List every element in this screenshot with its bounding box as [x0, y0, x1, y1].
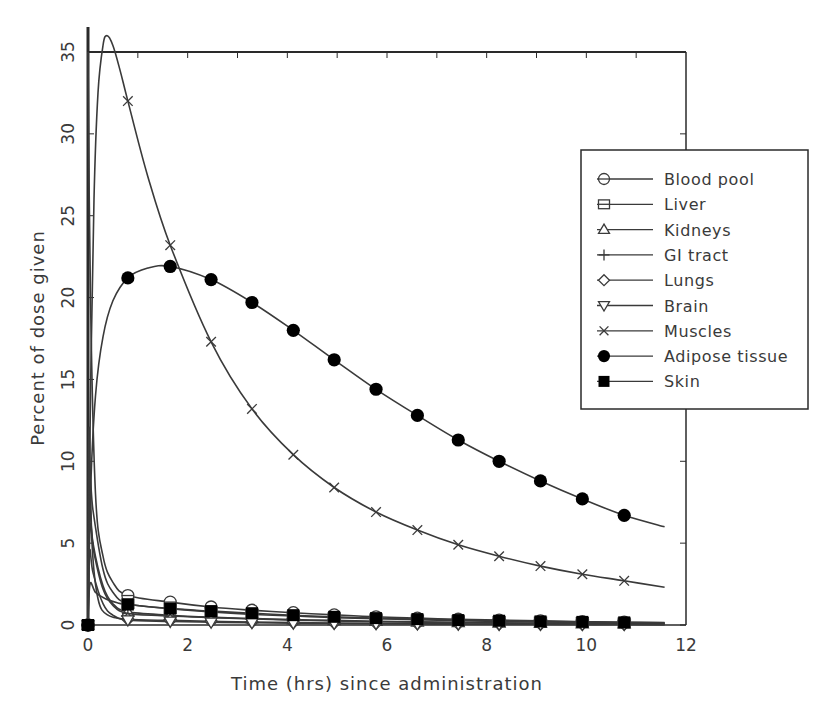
- circle-filled-marker: [121, 271, 134, 284]
- square-filled-marker: [205, 605, 217, 617]
- series-group: [81, 36, 664, 632]
- square-filled-marker: [246, 607, 258, 619]
- circle-filled-marker: [598, 350, 610, 362]
- circle-filled-marker: [369, 383, 382, 396]
- square-filled-marker: [599, 376, 610, 387]
- square-filled-marker: [618, 616, 630, 628]
- y-tick-label: 10: [58, 450, 78, 472]
- legend: Blood poolLiverKidneysGI tractLungsBrain…: [581, 150, 808, 409]
- series-adipose-tissue: [81, 260, 664, 632]
- circle-filled-marker: [493, 455, 506, 468]
- x-tick-label: 10: [576, 635, 598, 655]
- x-tick-label: 4: [282, 635, 293, 655]
- series-line: [88, 36, 665, 625]
- x-tick-label: 12: [675, 635, 697, 655]
- square-filled-marker: [328, 611, 340, 623]
- circle-filled-marker: [452, 433, 465, 446]
- x-tick-label: 6: [382, 635, 393, 655]
- circle-filled-marker: [576, 492, 589, 505]
- legend-label: Skin: [664, 372, 700, 391]
- square-filled-marker: [164, 603, 176, 615]
- y-tick-label: 5: [58, 538, 78, 549]
- circle-filled-marker: [534, 474, 547, 487]
- circle-filled-marker: [164, 260, 177, 273]
- square-filled-marker: [493, 615, 505, 627]
- series-blood-pool: [82, 52, 665, 631]
- legend-label: Adipose tissue: [664, 347, 788, 366]
- series-line: [88, 427, 665, 625]
- chart-canvas: 02468101205101520253035 Blood poolLiverK…: [0, 0, 833, 719]
- legend-label: Blood pool: [664, 170, 754, 189]
- chart: 02468101205101520253035 Blood poolLiverK…: [0, 0, 833, 719]
- legend-label: Lungs: [664, 271, 714, 290]
- legend-label: Brain: [664, 297, 709, 316]
- series-line: [88, 266, 665, 625]
- x-axis-title: Time (hrs) since administration: [230, 673, 543, 694]
- x-tick-label: 0: [83, 635, 94, 655]
- y-tick-label: 15: [58, 369, 78, 391]
- series-muscles: [83, 36, 664, 630]
- legend-label: Kidneys: [664, 221, 731, 240]
- y-tick-label: 25: [58, 205, 78, 227]
- circle-filled-marker: [287, 324, 300, 337]
- square-filled-marker: [370, 612, 382, 624]
- square-filled-marker: [82, 619, 94, 631]
- square-filled-marker: [122, 599, 134, 611]
- square-filled-marker: [287, 609, 299, 621]
- y-tick-label: 30: [58, 123, 78, 145]
- square-filled-marker: [576, 616, 588, 628]
- legend-label: Muscles: [664, 322, 732, 341]
- square-filled-marker: [534, 615, 546, 627]
- square-filled-marker: [452, 614, 464, 626]
- y-tick-label: 35: [58, 41, 78, 63]
- series-line: [88, 52, 665, 623]
- circle-filled-marker: [411, 409, 424, 422]
- y-axis-title: Percent of dose given: [27, 230, 48, 446]
- circle-filled-marker: [328, 353, 341, 366]
- legend-label: Liver: [664, 195, 706, 214]
- circle-filled-marker: [204, 273, 217, 286]
- x-tick-label: 2: [182, 635, 193, 655]
- x-tick-label: 8: [481, 635, 492, 655]
- legend-label: GI tract: [664, 246, 729, 265]
- square-filled-marker: [411, 613, 423, 625]
- y-tick-label: 20: [58, 287, 78, 309]
- y-tick-label: 0: [58, 620, 78, 631]
- circle-filled-marker: [618, 509, 631, 522]
- circle-filled-marker: [245, 296, 258, 309]
